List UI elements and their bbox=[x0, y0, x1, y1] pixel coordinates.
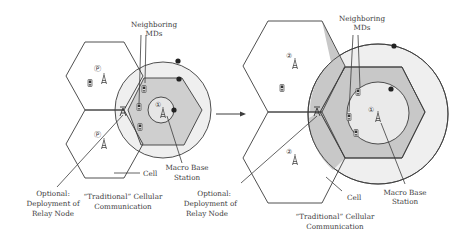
left-neighboring-mds-label: MDs bbox=[146, 29, 163, 38]
right-marker-dot-1 bbox=[388, 86, 393, 91]
right-md-phone-icon bbox=[354, 130, 358, 137]
right-cell-label: Cell bbox=[347, 193, 362, 202]
left-macro-base-station-label: Station bbox=[174, 173, 201, 182]
left-relay-label: Deployment of bbox=[26, 199, 81, 208]
left-relay-label: Optional: bbox=[36, 189, 70, 198]
right-macro-base-station-label: Macro Base bbox=[383, 188, 426, 197]
svg-text:①: ① bbox=[155, 100, 161, 109]
left-top-cell-phone-icon bbox=[88, 80, 92, 87]
svg-text:②: ② bbox=[286, 147, 292, 156]
left-macro-base-station-label: Macro Base bbox=[165, 163, 208, 172]
right-relay-label: Relay Node bbox=[186, 209, 228, 218]
left-panel: Ⓟ Ⓟ ① Neighboring MDs Macro Base Station… bbox=[26, 20, 211, 218]
left-traditional-label: “Traditional” Cellular bbox=[84, 192, 163, 201]
left-relay-label: Relay Node bbox=[32, 209, 74, 218]
right-relay-label: Deployment of bbox=[184, 199, 239, 208]
right-md-phone-icon bbox=[356, 89, 360, 96]
right-top-cell-tower-icon bbox=[293, 58, 298, 69]
right-panel: ② ② ① Neighboring MDs Macro Base Station… bbox=[184, 14, 448, 231]
right-bottom-cell-tower-icon bbox=[293, 154, 298, 165]
svg-text:Ⓟ: Ⓟ bbox=[94, 64, 101, 73]
left-md-phone-icon bbox=[138, 124, 142, 131]
left-inner-circle bbox=[148, 97, 174, 123]
right-marker-dot-2 bbox=[391, 43, 396, 48]
left-cell-label: Cell bbox=[143, 169, 158, 178]
svg-text:①: ① bbox=[368, 105, 374, 114]
left-marker-dot-2 bbox=[176, 76, 181, 81]
left-traditional-label: Communication bbox=[94, 202, 152, 211]
right-macro-base-station-label: Station bbox=[392, 197, 419, 206]
right-neighboring-mds-label: Neighboring bbox=[339, 14, 385, 23]
right-traditional-label: “Traditional” Cellular bbox=[296, 212, 375, 221]
transition-arrow-icon bbox=[216, 112, 246, 117]
svg-text:②: ② bbox=[286, 51, 292, 60]
right-relay-label: Optional: bbox=[197, 189, 231, 198]
right-top-cell-phone-icon bbox=[280, 85, 284, 92]
relay-diagram: Ⓟ Ⓟ ① Neighboring MDs Macro Base Station… bbox=[0, 0, 471, 244]
left-neighboring-mds-label: Neighboring bbox=[131, 20, 177, 29]
left-marker-dot-3 bbox=[175, 58, 180, 63]
right-traditional-label: Communication bbox=[306, 222, 364, 231]
left-top-cell-tower-icon bbox=[102, 73, 107, 84]
left-md-phone-icon bbox=[137, 104, 141, 111]
right-neighboring-mds-label: MDs bbox=[354, 23, 371, 32]
left-md-phone-icon bbox=[142, 86, 146, 93]
right-md-phone-icon bbox=[347, 114, 351, 121]
svg-text:Ⓟ: Ⓟ bbox=[94, 130, 101, 139]
left-bottom-cell-tower-icon bbox=[102, 138, 107, 149]
left-marker-dot-1 bbox=[171, 107, 176, 112]
